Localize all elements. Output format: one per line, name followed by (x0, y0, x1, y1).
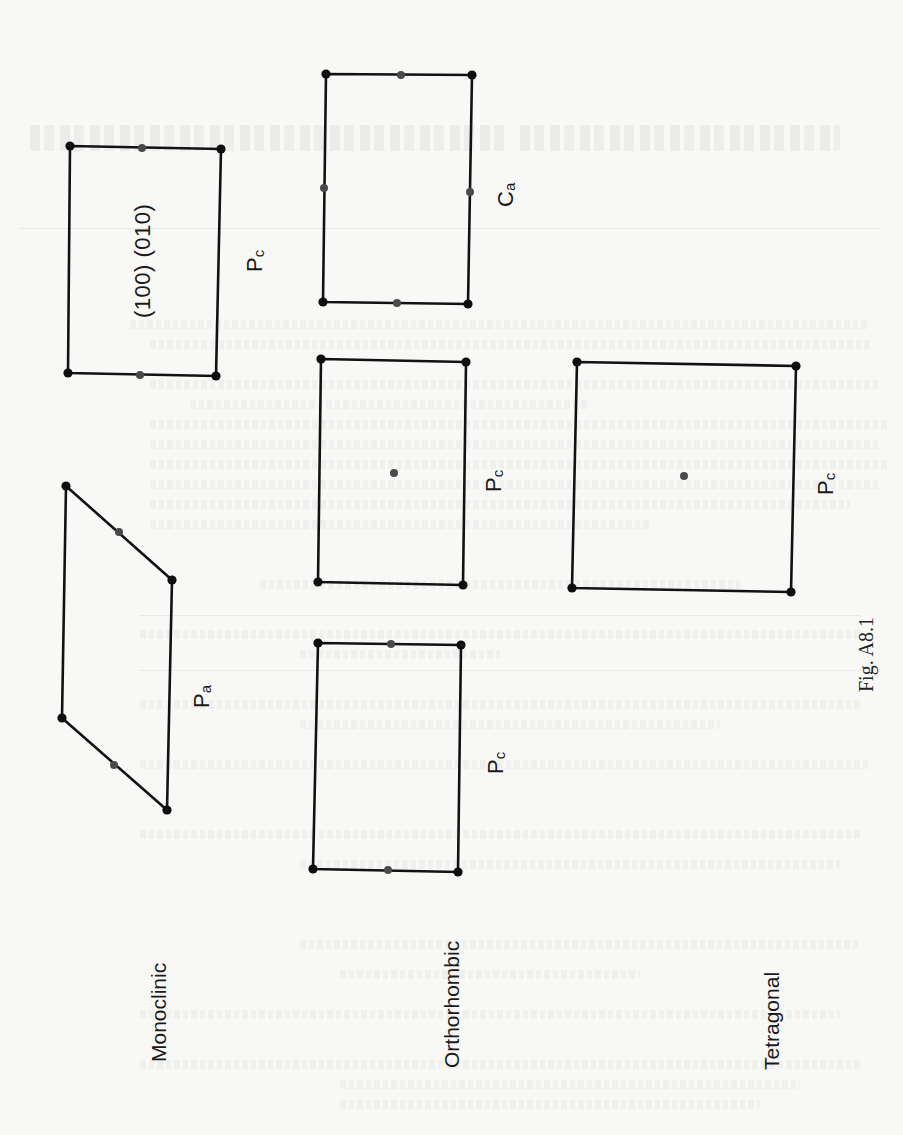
orthorhombic-ca-label: Ca (495, 183, 517, 207)
cell-subscript: c (491, 752, 508, 760)
system-label-monoclinic: Monoclinic (148, 963, 169, 1062)
cell-symbol: P (189, 693, 214, 708)
orthorhombic-pc-centred-cell (313, 354, 470, 589)
book-page: (100) (010) Pc Ca Pc Pc Pa Pc Monoclinic… (0, 0, 903, 1135)
cell-symbol: P (483, 759, 508, 774)
cell-subscript: c (489, 470, 506, 478)
cell-symbol: C (493, 191, 518, 207)
cell-subscript: a (197, 685, 214, 693)
monoclinic-pa-label: Pa (191, 685, 213, 708)
figure-caption: Fig. A8.1 (856, 617, 876, 692)
cell-symbol: P (813, 480, 838, 495)
cell-subscript: c (250, 250, 267, 258)
monoclinic-pa-cell (57, 481, 176, 814)
system-label-orthorhombic: Orthorhombic (441, 941, 462, 1068)
tetragonal-pc-cell (567, 357, 800, 596)
cell-subscript: c (821, 473, 838, 481)
tetragonal-pc-label: Pc (815, 473, 837, 495)
orthorhombic-pc-edge-cell (308, 638, 465, 876)
orthorhombic-pc-centred-label: Pc (483, 470, 505, 492)
orthorhombic-ca-cell (318, 69, 476, 308)
monoclinic-pc-label: Pc (244, 250, 266, 272)
system-label-tetragonal: Tetragonal (761, 972, 782, 1070)
cell-subscript: a (501, 183, 518, 191)
cell-symbol: P (242, 257, 267, 272)
planes-text: (100) (010) (130, 204, 155, 318)
orthorhombic-pc-edge-label: Pc (485, 752, 507, 774)
monoclinic-planes-label: (100) (010) (132, 204, 154, 318)
cell-symbol: P (481, 477, 506, 492)
